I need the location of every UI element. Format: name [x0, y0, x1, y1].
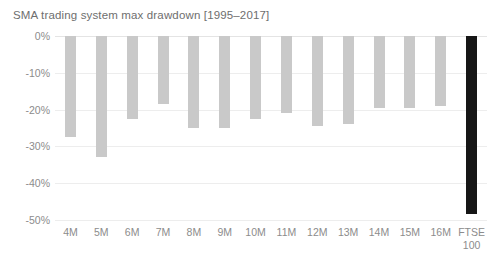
x-axis-tick-label: 6M — [117, 226, 148, 239]
gridline — [55, 146, 487, 147]
x-axis-tick-label: 9M — [209, 226, 240, 239]
gridline — [55, 183, 487, 184]
x-axis-tick-label: 5M — [86, 226, 117, 239]
x-axis-tick-label: 4M — [55, 226, 86, 239]
gridline — [55, 110, 487, 111]
bar — [158, 36, 169, 104]
chart-container: SMA trading system max drawdown [1995–20… — [0, 0, 495, 264]
bar — [343, 36, 354, 124]
x-axis-tick-label: 7M — [148, 226, 179, 239]
x-axis-tick-label: 12M — [302, 226, 333, 239]
gridline — [55, 73, 487, 74]
x-axis-labels: 4M5M6M7M8M9M10M11M12M13M14M15M16MFTSE 10… — [55, 226, 487, 264]
bar — [312, 36, 323, 126]
bar — [374, 36, 385, 108]
x-axis-tick-label: 15M — [394, 226, 425, 239]
y-axis-tick-label: -50% — [0, 214, 50, 226]
y-axis-tick-label: -10% — [0, 67, 50, 79]
x-axis-tick-label: 16M — [425, 226, 456, 239]
y-axis-tick-label: -30% — [0, 140, 50, 152]
y-axis-tick-label: 0% — [0, 30, 50, 42]
x-axis-tick-label: 14M — [364, 226, 395, 239]
x-axis-tick-label: 8M — [178, 226, 209, 239]
x-axis-tick-label: 10M — [240, 226, 271, 239]
y-axis-tick-label: -40% — [0, 177, 50, 189]
bar — [250, 36, 261, 119]
x-axis-tick-label: 11M — [271, 226, 302, 239]
bar — [219, 36, 230, 128]
bar — [466, 36, 477, 214]
y-axis-labels: 0%-10%-20%-30%-40%-50% — [0, 36, 50, 220]
x-axis-tick-label: FTSE 100 — [456, 226, 487, 252]
bar — [96, 36, 107, 157]
chart-title: SMA trading system max drawdown [1995–20… — [13, 9, 269, 21]
bar — [65, 36, 76, 137]
bar — [127, 36, 138, 119]
bar — [281, 36, 292, 113]
bar — [188, 36, 199, 128]
x-axis-tick-label: 13M — [333, 226, 364, 239]
gridline — [55, 220, 487, 221]
gridline — [55, 36, 487, 37]
y-axis-tick-label: -20% — [0, 104, 50, 116]
bar — [404, 36, 415, 108]
bar — [435, 36, 446, 106]
plot-area — [55, 36, 487, 220]
